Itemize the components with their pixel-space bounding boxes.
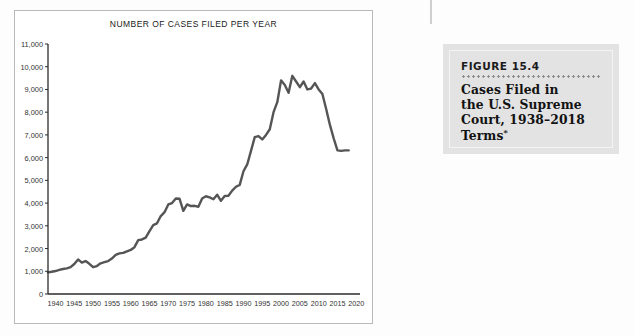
x-axis-tick-label: 1960 xyxy=(123,299,139,308)
x-axis-tick-label: 1970 xyxy=(160,299,176,308)
x-axis-tick-label: 1950 xyxy=(85,299,101,308)
x-axis-tick-label: 2010 xyxy=(311,299,327,308)
figure-title-line-2: the U.S. Supreme xyxy=(461,97,582,112)
x-axis-tick-label: 2020 xyxy=(348,299,364,308)
x-axis-tick-label: 2005 xyxy=(292,299,308,308)
figure-caption-card: FIGURE 15.4 Cases Filed in the U.S. Supr… xyxy=(443,44,619,154)
x-axis-tick-label: 1965 xyxy=(141,299,157,308)
x-axis-tick-label: 1995 xyxy=(254,299,270,308)
chart-panel: NUMBER OF CASES FILED PER YEAR 01,0002,0… xyxy=(14,10,373,324)
x-axis-tick-label: 1990 xyxy=(235,299,251,308)
x-axis-tick-label: 2015 xyxy=(329,299,345,308)
x-axis-tick-label: 1975 xyxy=(179,299,195,308)
figure-footnote-marker: * xyxy=(503,127,507,137)
x-axis-tick-label: 1985 xyxy=(217,299,233,308)
figure-number: FIGURE 15.4 xyxy=(461,60,602,72)
figure-title-line-1: Cases Filed in xyxy=(461,82,559,97)
figure-title-line-3: Court, 1938–2018 xyxy=(461,112,585,127)
x-axis-labels: 1940194519501955196019651970197519801985… xyxy=(15,11,372,323)
x-axis-tick-label: 1945 xyxy=(66,299,82,308)
x-axis-tick-label: 1980 xyxy=(198,299,214,308)
figure-title: Cases Filed in the U.S. Supreme Court, 1… xyxy=(461,82,602,143)
figure-dotted-rule xyxy=(461,75,602,78)
figure-title-line-4: Terms xyxy=(461,128,503,143)
x-axis-tick-label: 2000 xyxy=(273,299,289,308)
x-axis-tick-label: 1955 xyxy=(104,299,120,308)
x-axis-tick-label: 1940 xyxy=(48,299,64,308)
figure-page: NUMBER OF CASES FILED PER YEAR 01,0002,0… xyxy=(0,0,634,336)
page-rule xyxy=(430,0,432,24)
figure-caption-inner: FIGURE 15.4 Cases Filed in the U.S. Supr… xyxy=(449,50,613,148)
